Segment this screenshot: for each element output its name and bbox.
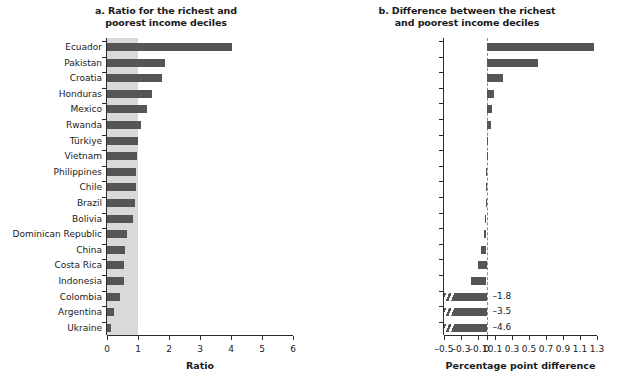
y-tick	[102, 291, 107, 292]
y-tick	[102, 103, 107, 104]
bar-row[interactable]: Honduras	[444, 88, 597, 104]
bar-row[interactable]: Dominican Republic	[107, 244, 293, 260]
x-tick-label: –0.5	[435, 344, 454, 354]
bar[interactable]	[487, 105, 493, 113]
bar-row[interactable]: Philippines	[107, 150, 293, 166]
bar-row[interactable]: Argentina–3.5	[444, 306, 597, 322]
bar-row[interactable]: Colombia	[107, 275, 293, 291]
bar[interactable]	[107, 59, 165, 67]
bar[interactable]	[486, 183, 487, 191]
bar[interactable]	[485, 215, 486, 223]
y-tick	[439, 166, 444, 167]
bar[interactable]	[481, 246, 487, 254]
bar[interactable]	[107, 168, 136, 176]
bar-row[interactable]: Philippines	[444, 166, 597, 182]
bar-row[interactable]: Croatia	[444, 72, 597, 88]
panel-b-title-line2: and poorest income deciles	[324, 17, 610, 29]
y-tick	[439, 322, 444, 323]
bar[interactable]	[107, 246, 125, 254]
bar[interactable]	[487, 59, 539, 67]
bar-row[interactable]: Ecuador	[107, 57, 293, 73]
x-tick-label: 6	[290, 344, 296, 354]
bar[interactable]	[487, 74, 503, 82]
bar[interactable]	[107, 121, 141, 129]
bar[interactable]	[487, 152, 488, 160]
bar[interactable]	[107, 293, 120, 301]
bar[interactable]	[487, 43, 594, 51]
category-label: Indonesia	[0, 276, 102, 286]
y-tick	[102, 88, 107, 89]
bar-row[interactable]: Pakistan	[444, 57, 597, 73]
bar[interactable]	[107, 105, 147, 113]
x-tick-label: 0	[104, 344, 110, 354]
bar-row[interactable]: Colombia–1.8	[444, 291, 597, 307]
bar-row[interactable]: Croatia	[107, 72, 293, 88]
bar-row[interactable]: Brazil	[444, 197, 597, 213]
bar-row[interactable]: Dominican Republic	[444, 228, 597, 244]
bar-row[interactable]: Costa Rica	[107, 322, 293, 338]
bar[interactable]	[107, 199, 135, 207]
bar-row[interactable]: Ukraine	[107, 259, 293, 275]
bar-row[interactable]: Costa Rica	[444, 259, 597, 275]
bar-row[interactable]: China	[107, 291, 293, 307]
bar-row[interactable]: Indonesia	[444, 275, 597, 291]
y-tick	[102, 259, 107, 260]
x-tick	[597, 336, 598, 340]
bar-row[interactable]: Rwanda	[107, 88, 293, 104]
y-tick	[439, 135, 444, 136]
bar-row[interactable]: Rwanda	[444, 119, 597, 135]
category-label: Pakistan	[0, 58, 102, 68]
bar-row[interactable]: Mexico	[444, 103, 597, 119]
bar[interactable]	[107, 183, 136, 191]
bar[interactable]	[107, 137, 138, 145]
panel-a-plot-area: 0123456 PakistanEcuadorCroatiaRwandaMexi…	[107, 38, 293, 335]
bar[interactable]	[107, 261, 124, 269]
bar[interactable]	[487, 90, 495, 98]
y-tick	[439, 275, 444, 276]
bar[interactable]	[486, 168, 487, 176]
bar-row[interactable]: Indonesia	[107, 213, 293, 229]
bar[interactable]	[487, 137, 488, 145]
bar[interactable]	[107, 43, 232, 51]
bar[interactable]	[478, 261, 487, 269]
bar[interactable]	[471, 277, 486, 285]
bar-row[interactable]: Vietnam	[107, 181, 293, 197]
bar-row[interactable]: Bolivia	[444, 213, 597, 229]
bar[interactable]	[107, 90, 152, 98]
bar-row[interactable]: Bolivia	[107, 166, 293, 182]
y-tick	[439, 244, 444, 245]
x-tick-label: 2	[166, 344, 172, 354]
y-tick	[439, 181, 444, 182]
bar[interactable]	[484, 230, 487, 238]
panel-a-title: a. Ratio for the richest and poorest inc…	[28, 5, 304, 29]
bar-row[interactable]: Argentina	[107, 228, 293, 244]
bar[interactable]	[107, 277, 124, 285]
bar-row[interactable]: Ecuador	[444, 41, 597, 57]
bar-row[interactable]: Brazil	[107, 306, 293, 322]
y-tick	[102, 41, 107, 42]
bar[interactable]	[486, 199, 487, 207]
bar[interactable]	[107, 308, 114, 316]
bar-row[interactable]: Vietnam	[444, 150, 597, 166]
x-tick-label: 0.1	[488, 344, 502, 354]
bar-row[interactable]: Pakistan	[107, 41, 293, 57]
bar-row[interactable]: Chile	[444, 181, 597, 197]
bar-row[interactable]: China	[444, 244, 597, 260]
bar[interactable]	[107, 74, 162, 82]
panel-a-x-axis-title: Ratio	[107, 360, 293, 371]
bar[interactable]	[107, 152, 137, 160]
x-tick-label: 4	[228, 344, 234, 354]
bar-row[interactable]: Honduras	[107, 119, 293, 135]
y-tick	[102, 119, 107, 120]
x-tick-label: 3	[197, 344, 203, 354]
bar[interactable]	[107, 324, 111, 332]
bar[interactable]	[487, 121, 491, 129]
bar[interactable]	[107, 230, 127, 238]
bar-row[interactable]: Türkiye	[444, 135, 597, 151]
bar-row[interactable]: Mexico	[107, 103, 293, 119]
bar-row[interactable]: Türkiye	[107, 135, 293, 151]
bar-row[interactable]: Ukraine–4.6	[444, 322, 597, 338]
bar-row[interactable]: Chile	[107, 197, 293, 213]
bar[interactable]	[107, 215, 133, 223]
panel-b-title-line1: b. Difference between the richest	[378, 5, 555, 16]
